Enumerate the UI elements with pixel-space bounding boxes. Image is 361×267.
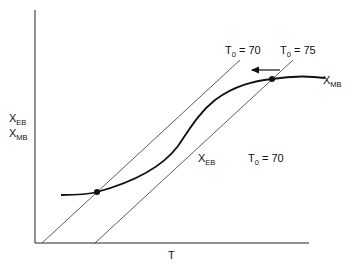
eb-line-t0-70 <box>42 60 240 243</box>
y-axis-label-xmb: XMB <box>9 127 28 142</box>
x-axis-label: T <box>168 249 175 261</box>
curve-label-xmb: XMB <box>323 74 342 89</box>
steady-state-point-low <box>94 189 100 195</box>
steady-state-point-high <box>269 76 275 82</box>
annotation-t0-70: T0 = 70 <box>248 152 284 167</box>
line-label-t0-75: T0 = 75 <box>280 44 316 59</box>
mb-curve <box>61 77 325 195</box>
y-axis-label-xeb: XEB <box>9 112 26 127</box>
line-label-t0-70: T0 = 70 <box>225 44 261 59</box>
diagram-canvas: T0 = 70 T0 = 75 XMB XEB T0 = 70 XEB XMB … <box>0 0 361 267</box>
line-label-xeb: XEB <box>198 152 215 167</box>
